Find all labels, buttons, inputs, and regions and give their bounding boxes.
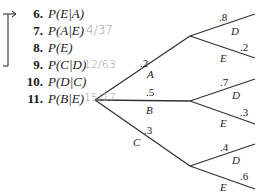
answer-7: 4/37 xyxy=(86,23,113,37)
bracket-line xyxy=(3,14,8,66)
answer-11: 15/17 xyxy=(84,91,116,104)
bracket-arrow-icon xyxy=(3,11,16,17)
question-7: 7.P(A|E) xyxy=(25,24,84,38)
label-a: A xyxy=(146,68,154,80)
question-10: 10.P(D|C) xyxy=(25,75,86,89)
label-a-d: D xyxy=(230,25,239,37)
label-c-e: E xyxy=(219,181,227,193)
prob-a-d: .8 xyxy=(219,11,228,23)
prob-a-e: .2 xyxy=(240,41,248,53)
question-8: 8.P(E) xyxy=(25,41,73,55)
label-a-e: E xyxy=(219,52,227,64)
question-9: 9.P(C|D) xyxy=(25,58,86,72)
question-11: 11.P(B|E) xyxy=(25,92,84,106)
question-6: 6.P(E|A) xyxy=(25,7,84,21)
prob-b: .5 xyxy=(146,86,155,98)
label-b-e: E xyxy=(219,117,227,129)
label-b: B xyxy=(146,104,153,116)
prob-b-e: .3 xyxy=(240,106,249,118)
prob-c-e: .6 xyxy=(240,170,249,182)
answer-9: 12/63 xyxy=(84,58,116,71)
prob-b-d: .7 xyxy=(220,76,229,88)
label-c: C xyxy=(133,136,141,148)
label-b-d: D xyxy=(231,89,240,101)
prob-c: .3 xyxy=(144,124,153,136)
label-c-d: D xyxy=(231,154,240,166)
prob-c-d: .4 xyxy=(220,141,229,153)
